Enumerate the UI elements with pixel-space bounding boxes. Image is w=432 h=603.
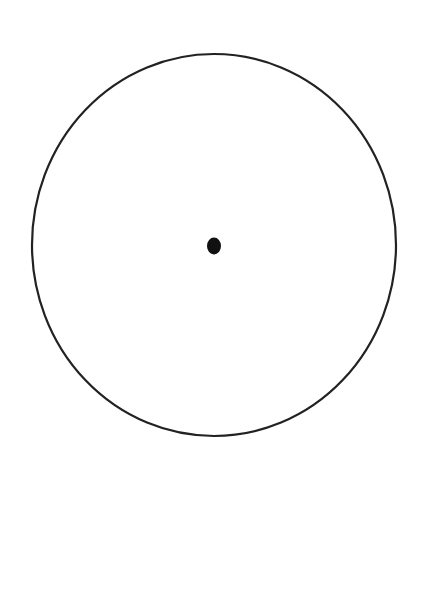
center-point [207, 238, 221, 255]
diagram-canvas [0, 0, 432, 603]
circle-diagram [0, 0, 432, 603]
background [0, 0, 432, 603]
